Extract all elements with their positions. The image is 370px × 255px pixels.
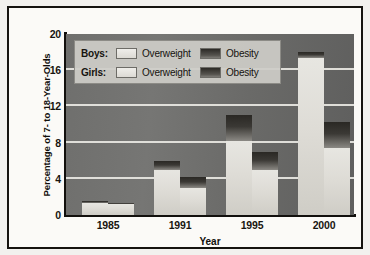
legend-row-girls: Girls: Overweight Obesity	[81, 63, 275, 82]
x-tick-label-1995: 1995	[241, 219, 264, 231]
bar-girls-1991	[180, 177, 206, 215]
y-tick-label-8: 8	[39, 137, 61, 149]
bar-boys-1991	[154, 161, 180, 215]
legend-swatch-boys-obesity-icon	[200, 48, 221, 59]
bar-girls-2000	[324, 122, 350, 215]
bar-segment-obesity	[298, 52, 324, 57]
legend-group-label-boys: Boys:	[81, 48, 116, 59]
bar-segment-overweight	[108, 204, 134, 215]
bar-boys-1985	[82, 201, 108, 215]
bar-segment-obesity	[82, 201, 108, 203]
legend-swatch-girls-obesity-icon	[200, 67, 221, 78]
bar-segment-overweight	[180, 188, 206, 215]
bar-segment-overweight	[226, 141, 252, 215]
bar-segment-obesity	[226, 115, 252, 140]
y-tick-label-0: 0	[39, 209, 61, 221]
x-axis-label: Year	[66, 236, 354, 247]
bar-segment-obesity	[154, 161, 180, 170]
legend-item-girls-overweight: Overweight	[116, 67, 200, 78]
y-tick-label-12: 12	[39, 100, 61, 112]
bar-boys-2000	[298, 52, 324, 215]
bar-segment-overweight	[252, 170, 278, 215]
plot-area-wrapper: Boys: Overweight Obesity Girls: Overweig…	[66, 34, 354, 215]
y-tick-label-4: 4	[39, 173, 61, 185]
bar-girls-1985	[108, 203, 134, 215]
legend-group-label-girls: Girls:	[81, 67, 116, 78]
chart-legend: Boys: Overweight Obesity Girls: Overweig…	[74, 40, 281, 84]
figure-frame: Percentage of 7- to 18-Year-Olds 0481216…	[7, 6, 363, 249]
bar-segment-obesity	[180, 177, 206, 188]
legend-label-girls-obesity: Obesity	[226, 67, 259, 78]
x-tick-label-1991: 1991	[169, 219, 192, 231]
figure-container: Percentage of 7- to 18-Year-Olds 0481216…	[0, 0, 370, 255]
y-axis-ticks: 048121620	[33, 34, 61, 215]
y-tick-label-16: 16	[39, 64, 61, 76]
bar-segment-overweight	[82, 203, 108, 215]
bar-segment-obesity	[324, 122, 350, 148]
legend-row-boys: Boys: Overweight Obesity	[81, 44, 275, 63]
y-tick-label-20: 20	[39, 28, 61, 40]
bar-segment-overweight	[298, 58, 324, 215]
bar-boys-1995	[226, 115, 252, 215]
legend-item-girls-obesity: Obesity	[200, 67, 259, 78]
bar-segment-overweight	[154, 170, 180, 215]
legend-label-girls-overweight: Overweight	[142, 67, 191, 78]
bar-segment-overweight	[324, 148, 350, 215]
bar-girls-1995	[252, 152, 278, 215]
legend-item-boys-overweight: Overweight	[116, 48, 200, 59]
x-axis-ticks: 1985199119952000	[66, 219, 354, 235]
x-tick-label-2000: 2000	[313, 219, 336, 231]
legend-label-boys-overweight: Overweight	[142, 48, 191, 59]
legend-item-boys-obesity: Obesity	[200, 48, 259, 59]
x-tick-label-1985: 1985	[97, 219, 120, 231]
bar-segment-obesity	[108, 203, 134, 204]
bar-segment-obesity	[252, 152, 278, 170]
legend-swatch-girls-overweight-icon	[116, 67, 137, 78]
legend-swatch-boys-overweight-icon	[116, 48, 137, 59]
legend-label-boys-obesity: Obesity	[226, 48, 259, 59]
